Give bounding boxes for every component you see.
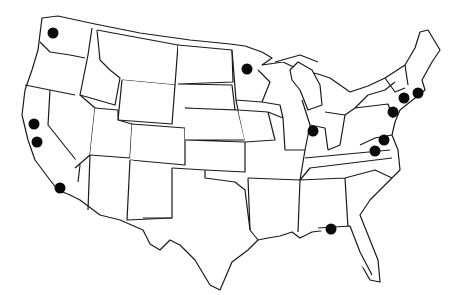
wy-border xyxy=(118,80,175,124)
marker-california-north-2[interactable] xyxy=(32,137,43,148)
us-map xyxy=(0,0,455,295)
marker-california-north-1[interactable] xyxy=(29,119,40,130)
marker-maryland[interactable] xyxy=(379,135,390,146)
marker-new-york-city[interactable] xyxy=(399,93,410,104)
marker-virginia-dc[interactable] xyxy=(370,146,381,157)
marker-washington[interactable] xyxy=(48,28,59,39)
marker-florida[interactable] xyxy=(326,224,337,235)
us-states-outline xyxy=(0,0,455,295)
marker-connecticut-rhode-island[interactable] xyxy=(413,88,424,99)
marker-new-jersey-philadelphia[interactable] xyxy=(388,107,399,118)
marker-california-south[interactable] xyxy=(55,183,66,194)
marker-indiana[interactable] xyxy=(308,126,319,137)
marker-minnesota[interactable] xyxy=(242,64,253,75)
co-border xyxy=(130,124,185,165)
